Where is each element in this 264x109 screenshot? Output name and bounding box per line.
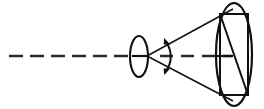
- diagram-background: [0, 0, 264, 109]
- optical-cone-diagram: [0, 0, 264, 109]
- diagram-canvas: [0, 0, 264, 109]
